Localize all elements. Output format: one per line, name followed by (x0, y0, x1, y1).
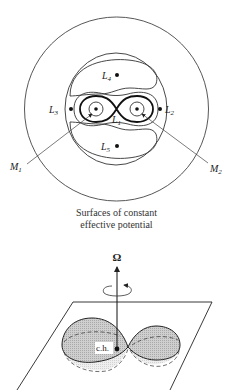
l2-point (158, 107, 162, 111)
roche-lobe-3d-diagram: Ω c.h. (17, 251, 212, 390)
l3-point (69, 107, 73, 111)
m2-leader-line (142, 114, 208, 163)
m2-point (135, 107, 139, 111)
equipotential-diagram: L3 L2 L4 L5 L1 M1 M2 Surfaces of constan… (9, 17, 222, 230)
l3-label: L3 (48, 104, 59, 117)
l4-contour (70, 60, 157, 96)
m1-point (94, 107, 98, 111)
l2-label: L2 (164, 104, 175, 117)
l5-contour (70, 122, 157, 158)
m1-leader-line (27, 114, 92, 164)
caption-line-2: effective potential (80, 219, 153, 230)
m2-label: M2 (209, 163, 222, 176)
l1-label: L1 (111, 114, 121, 127)
roche-potential-diagram: L3 L2 L4 L5 L1 M1 M2 Surfaces of constan… (0, 0, 234, 390)
l4-label: L4 (101, 70, 112, 83)
m1-label: M1 (9, 161, 22, 174)
l5-label: L5 (100, 141, 111, 154)
l5-point (115, 144, 119, 148)
omega-label: Ω (113, 251, 122, 263)
l4-point (115, 73, 119, 77)
caption-line-1: Surfaces of constant (76, 207, 157, 218)
center-point (115, 347, 120, 352)
center-label: c.h. (96, 343, 109, 353)
